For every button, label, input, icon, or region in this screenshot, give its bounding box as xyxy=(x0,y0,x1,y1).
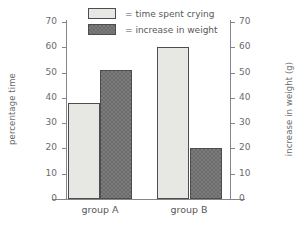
y-axis-left-tick-label: 20 xyxy=(17,143,57,152)
y-axis-left-tick xyxy=(62,98,66,99)
bar xyxy=(68,103,100,199)
y-axis-right-tick-label: 40 xyxy=(239,93,279,102)
bar-chart: = time spent crying = increase in weight… xyxy=(0,0,297,225)
y-axis-right-tick-label: 50 xyxy=(239,68,279,77)
y-axis-left-tick-label: 40 xyxy=(17,93,57,102)
y-axis-left-tick xyxy=(62,148,66,149)
y-axis-left-tick xyxy=(62,22,66,23)
bar xyxy=(190,148,222,199)
y-axis-left-tick xyxy=(62,123,66,124)
y-axis-right-tick xyxy=(231,98,235,99)
y-axis-left-tick-label: 60 xyxy=(17,42,57,51)
y-axis-left-tick-label: 30 xyxy=(17,118,57,127)
y-axis-left-tick-label: 10 xyxy=(17,169,57,178)
y-axis-right-tick xyxy=(231,174,235,175)
y-axis-right-tick-label: 60 xyxy=(239,42,279,51)
y-axis-right-tick-label: 0 xyxy=(239,194,279,203)
y-axis-right-tick xyxy=(231,148,235,149)
y-axis-right-tick xyxy=(231,123,235,124)
y-axis-left-tick-label: 0 xyxy=(17,194,57,203)
y-axis-right-tick xyxy=(231,199,235,200)
y-axis-right-tick-label: 20 xyxy=(239,143,279,152)
y-axis-right-tick xyxy=(231,22,235,23)
y-axis-right-tick-label: 10 xyxy=(239,169,279,178)
bar xyxy=(157,47,189,199)
y-axis-left-tick xyxy=(62,47,66,48)
y-axis-left-tick xyxy=(62,199,66,200)
y-axis-left-tick-label: 70 xyxy=(17,17,57,26)
bar xyxy=(100,70,132,199)
y-axis-left-tick xyxy=(62,174,66,175)
y-axis-left-tick xyxy=(62,73,66,74)
x-axis-category-label: group B xyxy=(137,204,241,215)
y-axis-left-tick-label: 50 xyxy=(17,68,57,77)
y-axis-right-tick xyxy=(231,73,235,74)
y-axis-right-tick-label: 70 xyxy=(239,17,279,26)
y-axis-right-tick xyxy=(231,47,235,48)
y-axis-right-tick-label: 30 xyxy=(239,118,279,127)
plot-area: 001010202030304040505060607070group Agro… xyxy=(0,0,297,225)
